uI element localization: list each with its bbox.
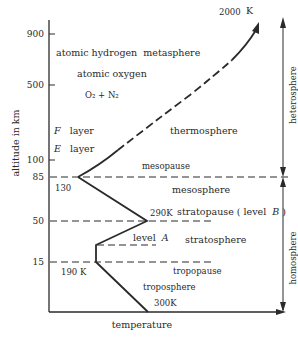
label-o2-n2: O₂ + N₂ [85,90,119,100]
y-tick-900: 900 [27,29,44,39]
heterosphere-down-arrow-icon [280,167,286,177]
level-dashed-lines [50,177,290,262]
y-tick-15: 15 [33,257,45,267]
label-f-layer: F layer [53,125,94,136]
label-mesopause: mesopause [142,161,190,171]
label-heterosphere: heterosphere [288,66,298,124]
atmosphere-temperature-diagram: 900 500 100 85 50 15 altitude in km temp… [0,0,298,345]
label-level-a: level A [133,232,169,243]
label-mesosphere: mesosphere [172,184,230,195]
y-ticks [49,34,55,160]
temp-290: 290K [150,208,173,218]
label-atomic-oxygen: atomic oxygen [77,68,147,79]
label-troposphere: troposphere [143,282,196,292]
y-tick-500: 500 [27,80,44,90]
temp-130: 130 [55,183,71,193]
label-atomic-hydrogen: atomic hydrogen metasphere [56,47,201,58]
y-tick-50: 50 [33,216,45,226]
temp-2000-unit: K [246,5,254,16]
y-tick-85: 85 [33,172,45,182]
label-tropopause: tropopause [173,266,222,276]
temperature-curve-upper-solid-low [78,150,118,177]
temp-300: 300K [154,298,177,308]
x-axis-arrow-icon [276,309,286,315]
label-e-layer: E layer [53,143,95,154]
homosphere-up-arrow-icon [280,177,286,187]
heterosphere-up-arrow-icon [280,17,286,28]
label-thermosphere: thermosphere [170,125,238,136]
temp-190: 190 K [61,267,87,277]
temperature-curve-upper-solid-top [232,30,256,60]
curve-arrow-icon [252,22,259,34]
label-homosphere: homosphere [288,231,298,284]
label-stratosphere: stratosphere [185,234,247,245]
y-axis-label: altitude in km [10,109,21,176]
temp-2000: 2000 [219,7,241,17]
label-stratopause: stratopause ( level B ) [177,206,286,217]
y-tick-100: 100 [27,155,44,165]
x-axis-label: temperature [112,319,173,330]
